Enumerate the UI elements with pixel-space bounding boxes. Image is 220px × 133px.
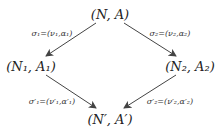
edge-label-sigma2-prime: σ′₂=(ν′₂,α′₂)	[147, 97, 193, 106]
commutative-diagram: (N, A) (N₁, A₁) (N₂, A₂) (N′, A′) σ₁=(ν₁…	[0, 0, 220, 133]
node-top: (N, A)	[91, 7, 129, 22]
node-right: (N₂, A₂)	[165, 59, 215, 74]
edge-label-sigma1: σ₁=(ν₁,α₁)	[32, 29, 73, 38]
node-left: (N₁, A₁)	[6, 59, 56, 74]
node-bottom: (N′, A′)	[87, 112, 132, 127]
edge-label-sigma1-prime: σ′₁=(ν′₁,α′₁)	[29, 97, 75, 106]
edge-label-sigma2: σ₂=(ν₂,α₂)	[150, 29, 191, 38]
